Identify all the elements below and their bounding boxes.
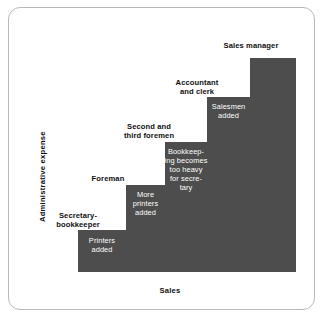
step-block-5 (250, 58, 296, 272)
plot-area: Printers added More printers added Bookk… (0, 0, 329, 321)
step-2-inner-label: More printers added (126, 190, 165, 217)
step-3-inner-label: Bookkeep- ing becomes too heavy for secr… (164, 147, 208, 192)
step-1-inner-label: Printers added (78, 236, 126, 254)
step-4-outer-label: Accountant and clerk (166, 78, 228, 97)
y-axis-title: Administrative expense (38, 131, 47, 222)
step-2-outer-label: Foreman (84, 174, 132, 183)
step-3-outer-label: Second and third foremen (118, 122, 180, 141)
step-1-outer-label: Secretary- bookkeeper (40, 211, 116, 230)
step-chart-figure: Printers added More printers added Bookk… (0, 0, 329, 321)
step-4-inner-label: Salesmen added (207, 102, 250, 120)
step-block-4 (207, 97, 250, 272)
x-axis-title: Sales (140, 286, 200, 295)
step-5-outer-label: Sales manager (209, 41, 293, 50)
